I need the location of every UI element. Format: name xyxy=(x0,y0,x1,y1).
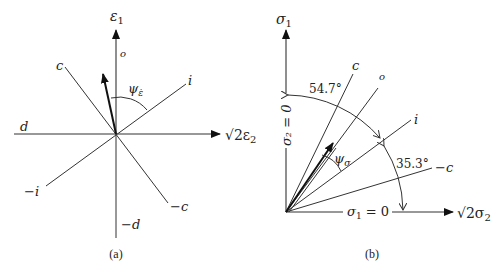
psi-sigma-label: ψσ xyxy=(334,151,351,168)
sigma2-zero-label: σ₂ = 0 xyxy=(279,104,294,146)
sqrt2-sigma2-label: √2σ2 xyxy=(457,205,491,223)
neg-i-label: −i xyxy=(24,184,39,199)
neg-d-label: −d xyxy=(121,217,140,232)
i-label-b: i xyxy=(414,112,418,127)
caption-a: (a) xyxy=(109,247,122,261)
d-label: d xyxy=(20,119,28,134)
o-label-b: o xyxy=(379,71,385,82)
neg-c-label-b: −c xyxy=(435,160,454,175)
o-label: o xyxy=(120,48,126,59)
sqrt2-epsilon2-label: √2ε2 xyxy=(225,127,256,145)
angle-54-7-label: 54.7° xyxy=(309,82,342,96)
neg-c-label: −c xyxy=(170,199,189,214)
sigma1-label: σ1 xyxy=(276,11,292,29)
angle-54-7-arc xyxy=(288,95,380,138)
neg-c-line-b xyxy=(286,168,432,212)
panel-a: ε1 o c i d −i −c −d ψε̇ √2ε2 (a) xyxy=(14,8,256,261)
stress-vector xyxy=(286,143,333,212)
caption-b: (b) xyxy=(365,247,379,261)
c-label: c xyxy=(56,58,64,73)
psi-epsilon-label: ψε̇ xyxy=(128,81,143,98)
angle-35-3-label: 35.3° xyxy=(396,157,429,171)
panel-b: σ1 c o i −c 54.7° 35.3° ψσ σ₂ = 0 σ1 = 0… xyxy=(276,11,491,261)
sigma1-zero-label: σ1 = 0 xyxy=(347,204,389,221)
epsilon1-label: ε1 xyxy=(110,8,124,26)
c-label-b: c xyxy=(352,58,360,73)
i-label: i xyxy=(188,73,192,88)
figure-canvas: ε1 o c i d −i −c −d ψε̇ √2ε2 (a) σ1 xyxy=(0,0,503,273)
